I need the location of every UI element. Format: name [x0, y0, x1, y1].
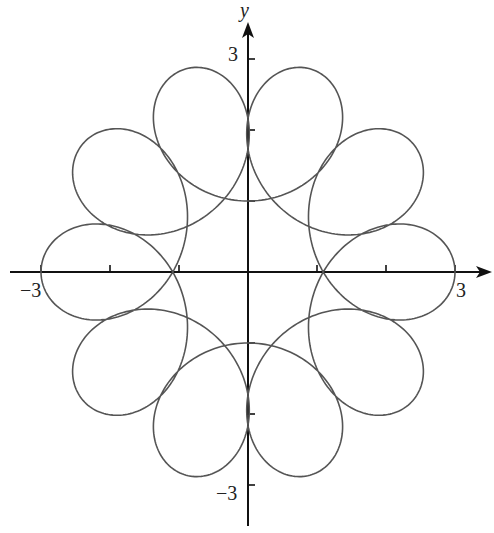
x-tick-label-3: 3	[456, 280, 466, 300]
polar-curve-plot	[0, 0, 494, 533]
y-tick-label-3: 3	[228, 44, 238, 64]
x-tick-label-neg3: −3	[20, 280, 41, 300]
y-tick-label-neg3: −3	[216, 483, 237, 503]
y-axis-label: y	[240, 0, 249, 20]
axes	[10, 22, 492, 526]
